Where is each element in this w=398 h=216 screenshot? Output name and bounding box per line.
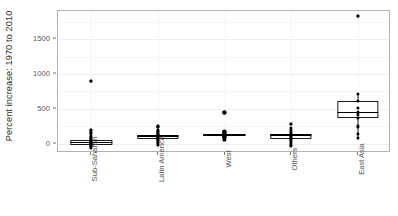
y-axis-tick-label: 0 bbox=[16, 138, 50, 147]
x-axis-tick-label-text: Others bbox=[290, 148, 299, 171]
x-axis-tick-label-text: East Asia bbox=[357, 143, 366, 175]
boxplot-east-asia bbox=[324, 11, 390, 151]
y-axis-tick-label: 500 bbox=[16, 103, 50, 112]
plot-panel bbox=[57, 10, 390, 152]
y-axis-tick-mark bbox=[53, 38, 56, 39]
y-axis-tick-label: 1500 bbox=[16, 34, 50, 43]
y-axis-tick-mark bbox=[53, 107, 56, 108]
boxplot-sub-saharan bbox=[58, 11, 125, 151]
boxplot-latin-america bbox=[125, 11, 192, 151]
y-axis-tick-mark bbox=[53, 73, 56, 74]
y-axis-tick-mark bbox=[53, 142, 56, 143]
x-axis-tick-label: Sub-Saharan bbox=[60, 157, 120, 213]
data-point bbox=[356, 116, 359, 119]
y-axis-tick-label: 1000 bbox=[16, 69, 50, 78]
outlier-point bbox=[90, 79, 93, 82]
boxplot-figure: Percent increase: 1970 to 2010 050010001… bbox=[0, 0, 398, 216]
data-point bbox=[356, 125, 359, 128]
y-axis-title-text: Percent increase: 1970 to 2010 bbox=[4, 11, 14, 142]
x-axis-tick-label-text: Latin America bbox=[157, 136, 166, 182]
data-point bbox=[356, 93, 359, 96]
outlier-point bbox=[356, 14, 359, 17]
x-axis-tick-label-text: West bbox=[223, 150, 232, 167]
boxplot-west bbox=[191, 11, 258, 151]
x-axis-tick-label: West bbox=[194, 157, 254, 213]
x-axis-tick-label-text: Sub-Saharan bbox=[90, 137, 99, 182]
outlier-point bbox=[156, 125, 159, 128]
x-axis-tick-label: Others bbox=[260, 157, 320, 213]
data-point bbox=[356, 137, 359, 140]
x-axis-tick-label: Latin America bbox=[127, 157, 187, 213]
outlier-point bbox=[290, 122, 293, 125]
boxplot-others bbox=[258, 11, 325, 151]
x-axis-tick-label: East Asia bbox=[327, 157, 387, 213]
outlier-point bbox=[223, 111, 226, 114]
data-point bbox=[356, 133, 359, 136]
